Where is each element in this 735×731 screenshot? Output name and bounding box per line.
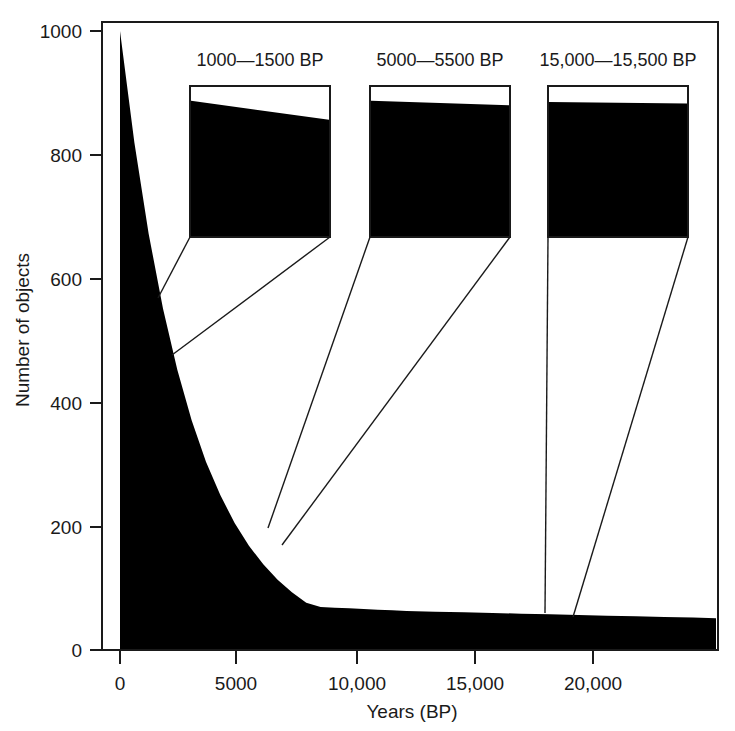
decay-chart: 1000—1500 BP 5000—5500 BP 15,000—15,500 … xyxy=(0,0,735,731)
x-tick-label-20000: 20,000 xyxy=(564,673,622,694)
y-tick-label-0: 0 xyxy=(71,640,82,661)
y-axis-title: Number of objects xyxy=(12,253,33,407)
x-tick-label-15000: 15,000 xyxy=(446,673,504,694)
y-tick-label-400: 400 xyxy=(50,393,82,414)
x-tick-label-0: 0 xyxy=(115,673,126,694)
y-tick-label-600: 600 xyxy=(50,269,82,290)
x-axis: 0 5000 10,000 15,000 20,000 xyxy=(115,650,622,694)
inset-1-title: 1000—1500 BP xyxy=(196,50,323,70)
y-axis: 1000 800 600 400 200 0 xyxy=(40,21,102,661)
inset-1-area xyxy=(191,101,329,236)
x-axis-title: Years (BP) xyxy=(366,701,457,722)
y-tick-label-200: 200 xyxy=(50,517,82,538)
y-tick-label-1000: 1000 xyxy=(40,21,82,42)
inset-3-area xyxy=(549,102,687,236)
inset-2-area xyxy=(371,101,509,236)
figure-container: 1000—1500 BP 5000—5500 BP 15,000—15,500 … xyxy=(0,0,735,731)
x-tick-label-5000: 5000 xyxy=(215,673,257,694)
inset-2-title: 5000—5500 BP xyxy=(376,50,503,70)
x-tick-label-10000: 10,000 xyxy=(328,673,386,694)
inset-3-title: 15,000—15,500 BP xyxy=(539,50,696,70)
y-tick-label-800: 800 xyxy=(50,145,82,166)
